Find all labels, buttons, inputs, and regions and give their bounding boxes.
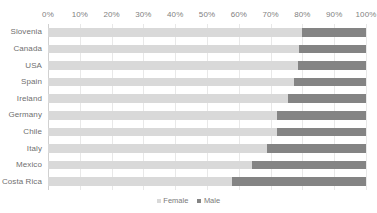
bar-row (48, 177, 366, 186)
legend-label-male: Male (204, 196, 220, 205)
bar-row (48, 161, 366, 170)
legend-label-female: Female (163, 196, 188, 205)
bar-segment-female-ireland (48, 94, 288, 103)
legend-swatch-male (197, 199, 201, 203)
category-label-costa-rica: Costa Rica (2, 177, 42, 187)
category-label-mexico: Mexico (16, 160, 42, 170)
legend-item-male[interactable]: Male (197, 196, 220, 205)
category-label-spain: Spain (21, 77, 42, 87)
x-axis-tick-90pct: 90% (326, 9, 342, 20)
x-axis-tick-80pct: 80% (294, 9, 310, 20)
category-label-usa: USA (25, 61, 42, 71)
x-axis-tick-0pct: 0% (42, 9, 54, 20)
bar-segment-male-italy (267, 144, 366, 153)
bar-row (48, 128, 366, 137)
bar-segment-female-italy (48, 144, 267, 153)
bar-segment-male-mexico (252, 161, 366, 170)
category-label-germany: Germany (8, 110, 42, 120)
category-label-italy: Italy (27, 144, 42, 154)
bar-segment-female-spain (48, 78, 294, 87)
bar-segment-female-canada (48, 45, 299, 54)
x-axis-tick-20pct: 20% (103, 9, 119, 20)
x-axis-tick-100pct: 100% (356, 9, 377, 20)
bar-segment-female-mexico (48, 161, 252, 170)
bar-segment-male-slovenia (302, 28, 366, 37)
bar-segment-female-germany (48, 111, 277, 120)
bar-row (48, 61, 366, 70)
bar-row (48, 94, 366, 103)
bar-row (48, 28, 366, 37)
plot-area (48, 24, 366, 190)
gridline-100pct (366, 24, 367, 190)
bar-segment-male-usa (298, 61, 366, 70)
category-label-chile: Chile (23, 127, 42, 137)
category-label-ireland: Ireland (17, 94, 42, 104)
x-axis-tick-labels: 0%10%20%30%40%50%60%70%80%90%100% (48, 9, 366, 23)
bar-segment-female-slovenia (48, 28, 302, 37)
legend-swatch-female (157, 199, 161, 203)
x-axis-tick-70pct: 70% (262, 9, 278, 20)
x-axis-tick-50pct: 50% (199, 9, 215, 20)
bar-segment-female-costa-rica (48, 177, 232, 186)
y-axis-category-labels: SloveniaCanadaUSASpainIrelandGermanyChil… (0, 24, 45, 190)
stacked-bar-chart: 0%10%20%30%40%50%60%70%80%90%100% Sloven… (0, 0, 377, 213)
bar-row (48, 45, 366, 54)
bar-segment-male-costa-rica (232, 177, 366, 186)
bar-segment-male-germany (277, 111, 366, 120)
bar-row (48, 78, 366, 87)
bar-segment-male-canada (299, 45, 366, 54)
bar-segment-male-ireland (288, 94, 366, 103)
bar-row (48, 144, 366, 153)
bar-row (48, 111, 366, 120)
bar-segment-female-usa (48, 61, 298, 70)
x-axis-tick-40pct: 40% (167, 9, 183, 20)
category-label-canada: Canada (13, 44, 42, 54)
legend-item-female[interactable]: Female (157, 196, 189, 205)
bar-segment-male-spain (294, 78, 366, 87)
category-label-slovenia: Slovenia (11, 27, 43, 37)
chart-legend: FemaleMale (0, 196, 377, 205)
x-axis-tick-60pct: 60% (231, 9, 247, 20)
x-axis-tick-10pct: 10% (72, 9, 88, 20)
bar-segment-female-chile (48, 128, 277, 137)
x-axis-tick-30pct: 30% (135, 9, 151, 20)
bar-segment-male-chile (277, 128, 366, 137)
